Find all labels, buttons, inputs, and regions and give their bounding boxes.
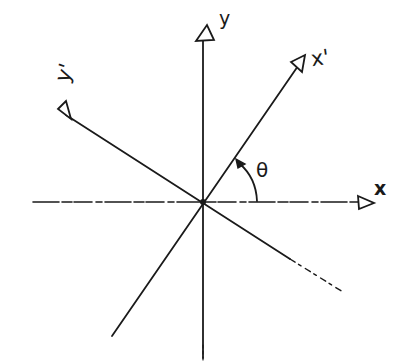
y-axis-label: y — [219, 9, 230, 28]
x-axis-label: x — [374, 179, 386, 198]
x-prime-axis-label: x' — [310, 47, 331, 70]
x-prime-axis-arrow-icon — [291, 55, 305, 72]
origin-point — [200, 199, 206, 205]
angle-arc — [240, 164, 257, 201]
y-prime-axis-arrow-icon — [58, 101, 71, 119]
rotated-axes-diagram — [0, 0, 412, 362]
x-axis-arrow-icon — [358, 196, 374, 209]
angle-label: θ — [256, 160, 268, 180]
y-axis-arrow-icon — [196, 25, 214, 41]
